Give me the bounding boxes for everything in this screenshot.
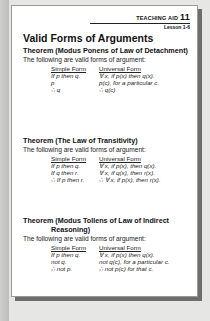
- column-header: Universal Form: [99, 155, 161, 162]
- form-line: p(c), for a particular c.: [99, 79, 159, 86]
- page-header: TEACHING AID11 Lesson 1-6: [90, 13, 190, 31]
- form-line: not q(c), for a particular c.: [99, 258, 170, 265]
- form-line: ∴ ∀ x, if p(x), then r(x).: [99, 176, 161, 183]
- form-line: ∀ x, if q(x), then r(x).: [99, 169, 161, 176]
- theorem-section-transitivity: Theorem (The Law of Transitivity) The fo…: [23, 136, 198, 183]
- lesson-label: Lesson 1-6: [90, 24, 190, 31]
- form-line: ∴ not p(c) for that c.: [99, 265, 170, 272]
- theorem-section-modus-tollens: Theorem (Modus Tollens of Law of Indirec…: [23, 216, 198, 272]
- page-title: Valid Forms of Arguments: [23, 32, 153, 44]
- theorem-heading: Theorem (Modus Tollens of Law of Indirec…: [23, 216, 198, 234]
- forms-table: Simple Form If p then q. not q. ∴ not p.…: [51, 244, 198, 272]
- teaching-aid-number: 11: [180, 12, 190, 22]
- simple-form-column: Simple Form If p then q. not q. ∴ not p.: [51, 244, 99, 272]
- form-line: If p then q.: [51, 72, 99, 79]
- teaching-aid-label: TEACHING AID11: [90, 13, 190, 24]
- theorem-section-modus-ponens: Theorem (Modus Ponens of Law of Detachme…: [23, 46, 198, 93]
- theorem-heading: Theorem (The Law of Transitivity): [23, 136, 198, 145]
- form-line: ∴ q(c): [99, 86, 159, 93]
- background-strip: [0, 0, 9, 321]
- form-line: ∴ If p then r.: [51, 176, 99, 183]
- column-header: Simple Form: [51, 155, 99, 162]
- theorem-heading-continued: Reasoning): [23, 225, 198, 234]
- column-header: Universal Form: [99, 244, 170, 251]
- simple-form-column: Simple Form If p then q. p ∴ q: [51, 65, 99, 93]
- form-line: If p then q.: [51, 251, 99, 258]
- forms-table: Simple Form If p then q. p ∴ q Universal…: [51, 65, 198, 93]
- column-header: Simple Form: [51, 65, 99, 72]
- teaching-aid-card: TEACHING AID11 Lesson 1-6 Valid Forms of…: [11, 5, 198, 297]
- theorem-heading: Theorem (Modus Ponens of Law of Detachme…: [23, 46, 198, 55]
- form-line: ∴ q: [51, 86, 99, 93]
- form-line: If q then r.: [51, 169, 99, 176]
- theorem-intro: The following are valid forms of argumen…: [23, 145, 198, 154]
- teaching-aid-text: TEACHING AID: [136, 15, 178, 21]
- form-line: ∀ x, if p(x) then q(x).: [99, 251, 170, 258]
- column-header: Universal Form: [99, 65, 159, 72]
- form-line: ∀ x, if p(x) then q(x).: [99, 72, 159, 79]
- simple-form-column: Simple Form If p then q. If q then r. ∴ …: [51, 155, 99, 183]
- form-line: p: [51, 79, 99, 86]
- form-line: If p then q.: [51, 162, 99, 169]
- form-line: ∀ x, if p(x), then q(x).: [99, 162, 161, 169]
- theorem-intro: The following are valid forms of argumen…: [23, 234, 198, 243]
- universal-form-column: Universal Form ∀ x, if p(x) then q(x). n…: [99, 244, 170, 272]
- forms-table: Simple Form If p then q. If q then r. ∴ …: [51, 155, 198, 183]
- form-line: ∴ not p.: [51, 265, 99, 272]
- form-line: not q.: [51, 258, 99, 265]
- universal-form-column: Universal Form ∀ x, if p(x), then q(x). …: [99, 155, 161, 183]
- theorem-intro: The following are valid forms of argumen…: [23, 55, 198, 64]
- column-header: Simple Form: [51, 244, 99, 251]
- universal-form-column: Universal Form ∀ x, if p(x) then q(x). p…: [99, 65, 159, 93]
